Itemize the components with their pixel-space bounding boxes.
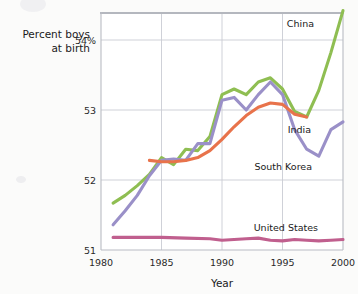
x-tick-2000: 2000 [331, 257, 355, 268]
y-tick-53: 53 [84, 105, 96, 116]
x-axis-tick-labels: 19801985199019952000 [89, 257, 355, 268]
x-axis-title: Year [210, 277, 234, 289]
y-tick-52: 52 [84, 175, 96, 186]
x-tick-1995: 1995 [270, 257, 294, 268]
series-label-south-korea: South Korea [254, 161, 312, 172]
y-axis-title-line1: Percent boys [22, 28, 90, 40]
y-tick-51: 51 [84, 245, 96, 256]
x-tick-1980: 1980 [89, 257, 113, 268]
y-axis-title-line2: at birth [51, 42, 90, 54]
series-label-china: China [287, 18, 314, 29]
series-label-united-states: United States [254, 222, 318, 233]
chart-container: 51525354% 19801985199019952000 Percent b… [0, 0, 358, 294]
line-chart: 51525354% 19801985199019952000 Percent b… [0, 0, 358, 294]
x-tick-1990: 1990 [210, 257, 234, 268]
x-tick-1985: 1985 [149, 257, 173, 268]
series-label-india: India [288, 124, 311, 135]
y-axis-tick-labels: 51525354% [75, 35, 96, 256]
